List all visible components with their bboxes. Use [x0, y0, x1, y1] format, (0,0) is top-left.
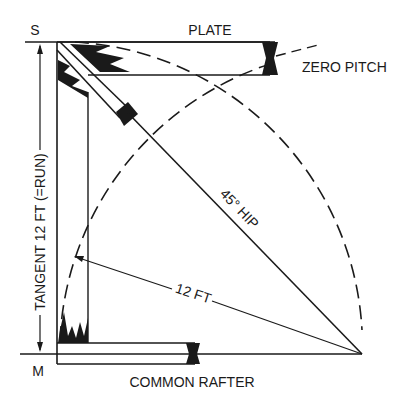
zero-pitch-label: ZERO PITCH: [302, 59, 387, 75]
plate-label: PLATE: [188, 22, 231, 38]
tangent-label: TANGENT 12 FT (=RUN): [32, 153, 48, 311]
common-rafter-label: COMMON RAFTER: [129, 374, 254, 390]
hip-rafter-diagram: S M PLATE ZERO PITCH COMMON RAFTER TANGE…: [0, 0, 404, 400]
arrow-up-icon: [37, 44, 43, 54]
zero-pitch-arc: [75, 42, 362, 330]
plate-member: [57, 42, 278, 75]
hip-line: [128, 113, 362, 354]
m-point-label: M: [32, 363, 44, 379]
radius-label: 12 FT: [174, 280, 214, 307]
hip-label: 45° HIP: [217, 186, 262, 232]
s-point-label: S: [30, 22, 39, 38]
radius-line: [76, 257, 172, 289]
arrow-down-icon: [37, 342, 43, 352]
